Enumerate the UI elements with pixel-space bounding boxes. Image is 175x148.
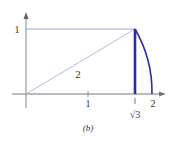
circle-arc [135,29,152,94]
hypotenuse-line [26,29,135,94]
x-tick-label-2: 2 [151,98,156,109]
x-tick-label-1: 1 [86,98,91,109]
figure-caption: (b) [83,123,94,133]
unit-circle-diagram: 1 2 1 2 √3 (b) [0,0,175,148]
x-axis [12,92,166,97]
x-axis-arrow-icon [159,92,166,97]
y-tick-label-1: 1 [15,24,20,35]
x-label-sqrt3: √3 [130,109,141,120]
hypotenuse-label: 2 [75,68,81,80]
y-axis-arrow-icon [24,12,29,19]
